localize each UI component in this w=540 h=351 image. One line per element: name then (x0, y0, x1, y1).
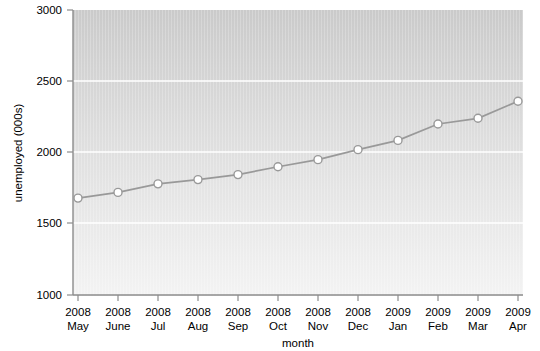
x-tick-month-6: Nov (308, 320, 329, 332)
x-tick-year-7: 2008 (345, 306, 371, 318)
x-tick-month-3: Aug (188, 320, 208, 332)
data-point-marker (354, 146, 362, 154)
data-point-marker (474, 114, 482, 122)
data-point-marker (514, 97, 522, 105)
chart-canvas: 3000 2500 2000 1500 1000 unemployed (000… (0, 0, 540, 351)
data-point-marker (74, 194, 82, 202)
x-tick-month-8: Jan (389, 320, 408, 332)
x-tick-year-1: 2008 (105, 306, 131, 318)
x-tick-month-11: Apr (509, 320, 527, 332)
y-axis-ticks (67, 10, 73, 295)
y-tick-label-1000: 1000 (36, 289, 62, 301)
y-tick-label-3000: 3000 (36, 4, 62, 16)
x-tick-month-7: Dec (348, 320, 369, 332)
x-tick-year-10: 2009 (465, 306, 491, 318)
x-tick-year-4: 2008 (225, 306, 251, 318)
unemployment-line-chart: 3000 2500 2000 1500 1000 unemployed (000… (0, 0, 540, 351)
plot-area (73, 10, 523, 296)
x-tick-month-9: Feb (428, 320, 448, 332)
data-point-marker (394, 136, 402, 144)
x-tick-month-0: May (67, 320, 89, 332)
data-point-marker (274, 163, 282, 171)
x-tick-year-5: 2008 (265, 306, 291, 318)
x-tick-year-3: 2008 (185, 306, 211, 318)
data-point-marker (114, 188, 122, 196)
data-point-marker (154, 180, 162, 188)
y-tick-label-1500: 1500 (36, 217, 62, 229)
y-tick-label-2500: 2500 (36, 75, 62, 87)
x-tick-month-1: June (106, 320, 131, 332)
y-tick-label-2000: 2000 (36, 146, 62, 158)
x-tick-year-9: 2009 (425, 306, 451, 318)
x-tick-year-11: 2009 (505, 306, 531, 318)
x-axis-tick-labels: 2008 May 2008 June 2008 Jul 2008 Aug 200… (65, 306, 531, 332)
data-point-marker (194, 176, 202, 184)
y-axis-title: unemployed (000s) (12, 104, 24, 203)
x-axis-title: month (282, 337, 314, 349)
x-tick-year-0: 2008 (65, 306, 91, 318)
x-tick-month-2: Jul (151, 320, 166, 332)
y-axis-tick-labels: 3000 2500 2000 1500 1000 (36, 4, 62, 301)
x-tick-year-6: 2008 (305, 306, 331, 318)
data-point-marker (234, 171, 242, 179)
x-tick-month-10: Mar (468, 320, 488, 332)
x-tick-year-8: 2009 (385, 306, 411, 318)
data-point-marker (314, 156, 322, 164)
plot-texture (73, 10, 523, 296)
x-tick-month-4: Sep (228, 320, 248, 332)
x-tick-month-5: Oct (269, 320, 288, 332)
x-tick-year-2: 2008 (145, 306, 171, 318)
data-point-marker (434, 120, 442, 128)
